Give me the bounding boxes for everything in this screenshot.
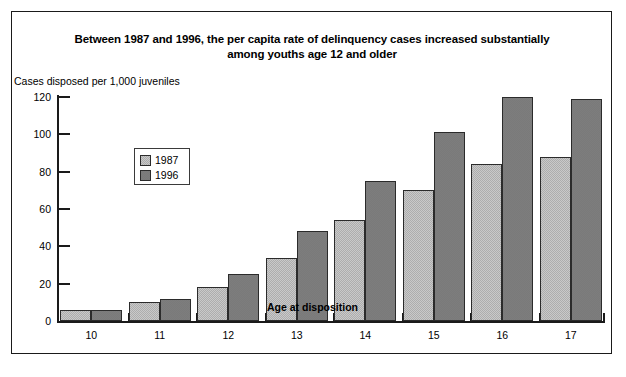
- y-tick-label: 20: [39, 278, 51, 290]
- bar-1987-age-17: [540, 157, 571, 321]
- y-tick-label: 60: [39, 203, 51, 215]
- chart-title: Between 1987 and 1996, the per capita ra…: [42, 32, 582, 62]
- x-tick-mark-end: [603, 313, 605, 323]
- x-tick-label-15: 15: [428, 329, 440, 341]
- legend-item-1996: 1996: [140, 168, 189, 182]
- bar-1996-age-12: [228, 274, 259, 321]
- x-tick-label-13: 13: [291, 329, 303, 341]
- x-tick-label-12: 12: [222, 329, 234, 341]
- y-axis-label: Cases disposed per 1,000 juveniles: [14, 75, 180, 87]
- y-tick-mark: [59, 208, 70, 210]
- y-tick-label: 0: [45, 315, 51, 327]
- bar-1996-age-15: [434, 132, 465, 321]
- chart-title-line-2: among youths age 12 and older: [42, 47, 582, 62]
- chart-title-line-1: Between 1987 and 1996, the per capita ra…: [42, 32, 582, 47]
- bar-1987-age-16: [471, 164, 502, 321]
- legend-item-1987: 1987: [140, 153, 189, 167]
- y-tick-mark: [59, 245, 70, 247]
- y-tick-mark: [59, 171, 70, 173]
- plot-area: 020406080100120 1011121314151617: [57, 95, 605, 323]
- x-tick-label-16: 16: [496, 329, 508, 341]
- bar-1996-age-16: [502, 97, 533, 321]
- bar-1996-age-14: [365, 181, 396, 321]
- legend-label-1987: 1987: [155, 155, 178, 166]
- y-tick-mark: [59, 133, 70, 135]
- y-tick-label: 80: [39, 166, 51, 178]
- bar-1996-age-17: [571, 99, 602, 321]
- x-axis-label: Age at disposition: [12, 301, 613, 313]
- chart-legend: 1987 1996: [134, 148, 190, 185]
- legend-swatch-1996: [140, 170, 151, 181]
- y-tick-mark: [59, 283, 70, 285]
- legend-swatch-1987: [140, 155, 151, 166]
- y-tick-mark: [59, 96, 70, 98]
- x-tick-label-10: 10: [85, 329, 97, 341]
- x-tick-label-11: 11: [154, 329, 165, 341]
- chart-figure: Between 1987 and 1996, the per capita ra…: [11, 11, 612, 354]
- y-tick-label: 100: [33, 128, 51, 140]
- legend-label-1996: 1996: [155, 170, 178, 181]
- x-tick-label-17: 17: [565, 329, 577, 341]
- x-tick-label-14: 14: [359, 329, 371, 341]
- x-axis-line: [57, 321, 605, 323]
- y-tick-label: 40: [39, 240, 51, 252]
- y-tick-label: 120: [33, 91, 51, 103]
